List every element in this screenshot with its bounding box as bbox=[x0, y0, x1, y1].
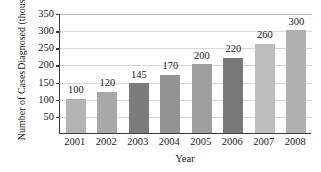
y-axis-title-line-2: Diagnosed (thousands) bbox=[16, 0, 27, 70]
bar[interactable] bbox=[129, 83, 149, 133]
y-axis-tick-label: 50 bbox=[44, 112, 55, 123]
bar-value-label: 300 bbox=[288, 17, 304, 28]
bar-slot: 220 bbox=[218, 13, 250, 133]
y-axis-title: Number of Cases Diagnosed (thousands) bbox=[4, 0, 38, 124]
bar-slot: 300 bbox=[281, 13, 313, 133]
x-axis-tick-label: 2006 bbox=[222, 137, 243, 148]
bar-slot: 100 bbox=[60, 13, 92, 133]
plot-area: 50100150200250300350 1001201451702002202… bbox=[59, 14, 311, 134]
y-axis-tick-label: 150 bbox=[38, 77, 54, 88]
x-axis-tick-label: 2004 bbox=[159, 137, 180, 148]
x-axis-tick-label: 2001 bbox=[64, 137, 85, 148]
bar-value-label: 100 bbox=[68, 85, 84, 96]
bar-value-label: 120 bbox=[99, 78, 115, 89]
x-axis-tick-label: 2008 bbox=[285, 137, 306, 148]
bar-value-label: 220 bbox=[225, 44, 241, 55]
bar-chart-figure: Number of Cases Diagnosed (thousands) 50… bbox=[0, 0, 321, 172]
bar-value-label: 200 bbox=[194, 51, 210, 62]
x-axis-tick-label: 2005 bbox=[190, 137, 211, 148]
x-axis-tick-label: 2003 bbox=[127, 137, 148, 148]
y-axis-tick-label: 350 bbox=[38, 9, 54, 20]
bar-slot: 200 bbox=[186, 13, 218, 133]
bar[interactable] bbox=[192, 64, 212, 133]
y-axis-tick-label: 200 bbox=[38, 60, 54, 71]
bar[interactable] bbox=[255, 44, 275, 133]
bar[interactable] bbox=[286, 30, 306, 133]
y-axis-tick-label: 250 bbox=[38, 43, 54, 54]
bar-slot: 120 bbox=[92, 13, 124, 133]
y-axis-title-line-1: Number of Cases bbox=[16, 71, 27, 140]
bar-slot: 260 bbox=[249, 13, 281, 133]
bar[interactable] bbox=[97, 92, 117, 133]
bar-value-label: 170 bbox=[162, 61, 178, 72]
x-axis-tick-label: 2002 bbox=[96, 137, 117, 148]
bar-slot: 145 bbox=[123, 13, 155, 133]
x-axis-title: Year bbox=[59, 153, 311, 164]
bar-value-label: 145 bbox=[131, 70, 147, 81]
y-axis-tick-label: 300 bbox=[38, 26, 54, 37]
bar[interactable] bbox=[160, 75, 180, 133]
x-axis-tick-label: 2007 bbox=[253, 137, 274, 148]
bar[interactable] bbox=[66, 99, 86, 133]
bars-group: 100120145170200220260300 bbox=[60, 13, 312, 133]
bar-slot: 170 bbox=[155, 13, 187, 133]
bar[interactable] bbox=[223, 58, 243, 133]
bar-value-label: 260 bbox=[257, 30, 273, 41]
y-axis-tick-label: 100 bbox=[38, 94, 54, 105]
